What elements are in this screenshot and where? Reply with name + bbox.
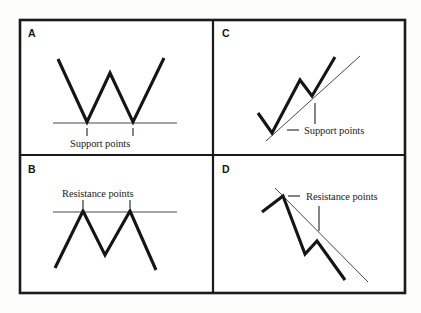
panel-b-letter: B <box>28 163 36 175</box>
panel-c-letter: C <box>222 27 230 39</box>
figure-container: A Support points B Resistance points <box>0 0 421 313</box>
panel-b-background <box>21 157 212 292</box>
panel-b: B Resistance points <box>21 157 212 292</box>
panel-d-resistance-label: Resistance points <box>306 191 378 202</box>
panel-c-support-label: Support points <box>304 125 364 136</box>
support-resistance-figure: A Support points B Resistance points <box>0 0 421 313</box>
panel-d: D Resistance points <box>215 157 404 292</box>
panel-a: A Support points <box>21 21 212 154</box>
panel-d-background <box>215 157 404 292</box>
panel-b-resistance-label: Resistance points <box>62 188 134 199</box>
panel-d-letter: D <box>222 163 230 175</box>
panel-a-support-label: Support points <box>70 138 130 149</box>
panel-a-letter: A <box>28 27 36 39</box>
panel-c: C Support points <box>215 21 404 154</box>
